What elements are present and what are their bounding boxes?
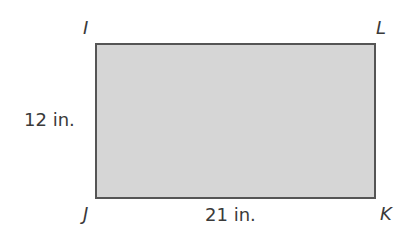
width-dimension-label: 21 in. <box>205 206 256 224</box>
vertex-label-l: L <box>376 19 386 37</box>
vertex-label-i: I <box>83 19 88 37</box>
vertex-label-j: J <box>83 205 88 223</box>
vertex-label-k: K <box>380 205 392 223</box>
rectangle-ijkl <box>95 43 376 199</box>
rectangle-diagram: I L J K 12 in. 21 in. <box>0 0 412 231</box>
height-dimension-label: 12 in. <box>24 111 75 129</box>
